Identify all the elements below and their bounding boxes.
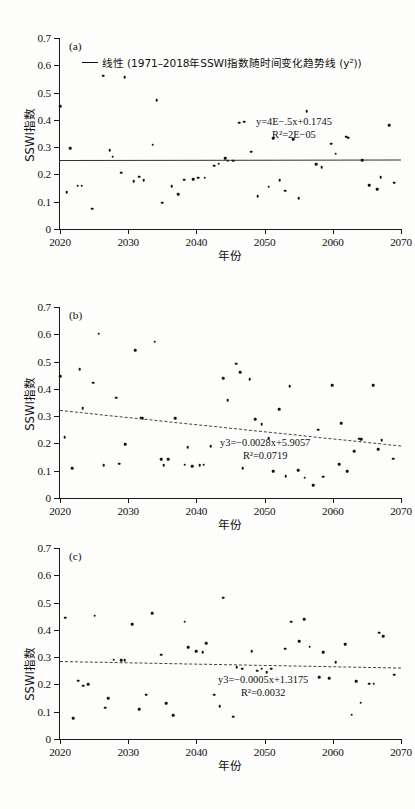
data-point [226, 399, 229, 402]
data-point [360, 438, 363, 441]
data-point [186, 446, 189, 449]
data-point [235, 362, 238, 365]
y-tick-label: 0.5 [38, 87, 51, 99]
data-point [318, 676, 321, 679]
y-tick [54, 202, 60, 203]
data-point [278, 179, 281, 182]
data-point [392, 457, 395, 460]
data-point [213, 694, 216, 697]
data-point [102, 464, 105, 467]
data-point [306, 110, 309, 113]
data-point [284, 647, 287, 650]
data-point [174, 417, 177, 420]
data-point [328, 677, 331, 680]
data-point [372, 683, 375, 686]
legend-a: 线性 (1971–2018年SSWI指数随时间变化趋势线 (y²)) [82, 55, 362, 70]
data-point [322, 651, 325, 654]
x-tick [196, 229, 197, 234]
data-point [162, 464, 165, 467]
equation-block-b: y3=−0.0028x+5.9057 R²=0.0719 [220, 437, 310, 462]
y-tick-label: 0.3 [38, 651, 51, 663]
y-tick [54, 416, 60, 417]
data-point [115, 396, 118, 399]
data-point [138, 708, 141, 711]
x-tick [196, 739, 197, 744]
data-point [303, 618, 306, 621]
data-point [172, 714, 175, 717]
x-tick [333, 498, 334, 503]
y-tick-label: 0 [46, 733, 51, 745]
data-point [243, 120, 246, 123]
data-point [272, 470, 275, 473]
data-point [107, 697, 110, 700]
y-tick [54, 684, 60, 685]
data-point [334, 661, 337, 664]
plot-area-c: 00.10.20.30.40.50.60.7202020302040205020… [59, 548, 401, 740]
y-tick-label: 0.1 [38, 706, 51, 718]
y-tick-label: 0.4 [38, 114, 51, 126]
data-point [138, 176, 141, 179]
data-point [156, 99, 159, 102]
panel-label-c: (c) [69, 550, 82, 562]
y-axis-label-a: SSWI指数 [21, 108, 37, 162]
y-tick [54, 147, 60, 148]
data-point [304, 477, 307, 480]
data-point [69, 147, 72, 150]
y-axis-label-b: SSWI指数 [21, 377, 37, 431]
data-point [241, 467, 244, 470]
data-point [81, 407, 84, 410]
y-axis-label-c: SSWI指数 [21, 647, 37, 701]
data-point [203, 176, 206, 179]
y-tick-label: 0.6 [38, 569, 51, 581]
data-point [187, 646, 190, 649]
data-point [124, 443, 127, 446]
data-point [167, 458, 170, 461]
data-point [267, 185, 270, 188]
data-point [222, 596, 225, 599]
data-point [261, 668, 264, 671]
data-point [351, 713, 354, 716]
y-tick [54, 657, 60, 658]
data-point [359, 701, 362, 704]
data-point [104, 707, 107, 710]
y-tick-label: 0.6 [38, 59, 51, 71]
x-tick [333, 229, 334, 234]
data-point [113, 659, 116, 662]
y-tick-label: 0.5 [38, 597, 51, 609]
data-point [102, 74, 105, 77]
data-point [165, 702, 168, 705]
data-point [322, 475, 325, 478]
data-point [393, 182, 396, 185]
data-point [143, 179, 146, 182]
data-point [388, 124, 391, 127]
x-axis-label-a: 年份 [59, 247, 401, 263]
x-tick [196, 498, 197, 503]
y-tick [54, 65, 60, 66]
data-point [123, 76, 126, 79]
legend-line-icon [82, 62, 98, 63]
equation-c: y3=−0.0005x+1.3175 [218, 674, 308, 687]
plot-area-b: 00.10.20.30.40.50.60.7202020302040205020… [59, 307, 401, 499]
figure-root: SSWI指数 00.10.20.30.40.50.60.720202030204… [0, 0, 415, 809]
data-point [59, 375, 62, 378]
data-point [235, 666, 238, 669]
y-tick-label: 0.2 [38, 437, 51, 449]
y-tick [54, 443, 60, 444]
data-point [192, 178, 195, 181]
data-point [248, 378, 251, 381]
data-point [64, 617, 67, 620]
data-point [284, 189, 287, 192]
data-point [278, 408, 281, 411]
y-tick-label: 0.7 [38, 32, 51, 44]
y-tick-label: 0.1 [38, 465, 51, 477]
y-tick [54, 362, 60, 363]
data-point [250, 150, 253, 153]
data-point [382, 635, 385, 638]
data-point [59, 105, 62, 108]
y-tick [54, 389, 60, 390]
y-tick-label: 0.7 [38, 542, 51, 554]
data-point [177, 193, 180, 196]
data-point [321, 166, 324, 169]
data-point [132, 180, 135, 183]
data-point [111, 155, 114, 158]
